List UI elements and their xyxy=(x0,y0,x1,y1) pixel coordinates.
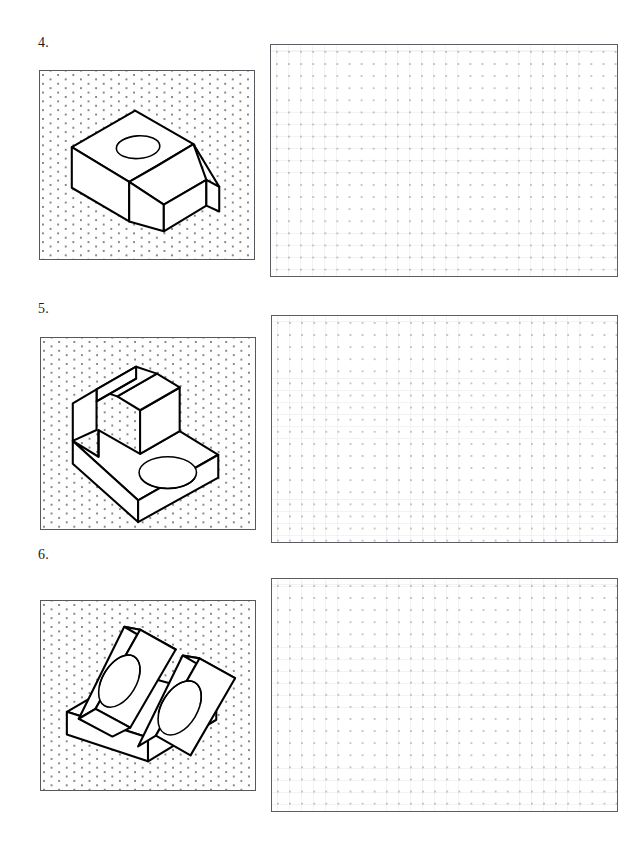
problem-number-6: 6. xyxy=(38,548,49,562)
figure-5-wall-chamfer-lower-face xyxy=(97,367,157,397)
figure-6-rib-right-outer-face xyxy=(138,655,199,746)
figure-6-rib-right-inner-face xyxy=(156,658,235,755)
figure-4-lower-right-face xyxy=(164,180,207,231)
figure-4-ramp-face xyxy=(129,144,206,204)
figure-4-left-face xyxy=(72,147,129,221)
figure-5-wall-left-vertical-face xyxy=(73,389,97,440)
figure-6-drawing xyxy=(41,601,255,790)
figure-4-right-upper-edge xyxy=(194,144,220,187)
figure-6-rib-left-hole-depth-arc xyxy=(98,648,147,701)
figure-5-wall-left-band-face xyxy=(97,367,137,402)
figure-5-base-hole-depth-arc xyxy=(141,479,194,489)
figure-5-wall-chamfer-upper-face xyxy=(117,374,179,411)
worksheet-page: 4. 5. xyxy=(0,0,644,867)
figure-4-top-hole xyxy=(116,134,161,160)
isometric-pictorial-panel-5 xyxy=(40,337,256,530)
figure-6-rib-left-outer-face xyxy=(79,627,140,719)
figure-6-rib-left-inner-face xyxy=(96,630,176,728)
figure-6-rib-right-hole xyxy=(149,673,210,742)
isometric-pictorial-panel-4 xyxy=(39,70,255,260)
isometric-pictorial-panel-6 xyxy=(40,600,256,791)
figure-5-base-top-face xyxy=(73,430,218,500)
figure-5-drawing xyxy=(41,338,255,529)
figure-6-rib-left-toe-face xyxy=(79,709,130,737)
figure-5-base-front-right-face xyxy=(138,455,218,522)
figure-6-rib-left-top-face xyxy=(124,627,175,650)
figure-5-base-front-left-face xyxy=(73,441,138,522)
figure-5-wall-band-edge xyxy=(97,379,137,402)
problem-number-5: 5. xyxy=(38,302,49,316)
figure-6-rib-right-top-face xyxy=(183,655,235,678)
answer-grid-panel-6[interactable] xyxy=(271,578,618,812)
figure-4-right-side-face xyxy=(206,180,219,212)
figure-4-drawing xyxy=(40,71,254,259)
figure-5-wall-right-face xyxy=(140,387,180,453)
figure-4-top-face xyxy=(72,111,194,182)
figure-6-base-front-left-face xyxy=(67,712,148,761)
answer-grid-panel-4[interactable] xyxy=(270,44,618,277)
figure-4-front-face xyxy=(129,182,164,231)
figure-5-base-hole xyxy=(139,457,196,489)
figure-6-rib-right-hole-depth-arc xyxy=(157,673,209,728)
figure-6-rib-left-hole xyxy=(90,648,148,715)
figure-6-base-top-face xyxy=(67,673,216,737)
problem-number-4: 4. xyxy=(38,36,49,50)
figure-6-base-front-right-face xyxy=(148,696,216,761)
answer-grid-panel-5[interactable] xyxy=(271,315,618,543)
